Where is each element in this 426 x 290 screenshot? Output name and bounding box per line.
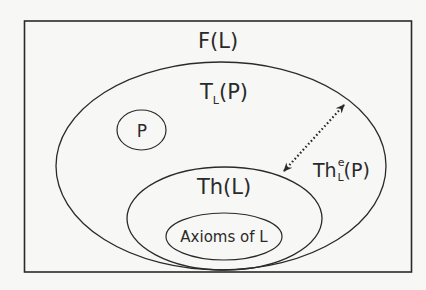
venn-diagram: F(L) TL(P) P Th(L) Axioms of L TheL(P) xyxy=(0,0,426,290)
label-axioms: Axioms of L xyxy=(180,228,268,246)
label-th-e-l-p: TheL(P) xyxy=(312,156,370,184)
label-fl: F(L) xyxy=(198,29,238,53)
label-p: P xyxy=(137,121,147,141)
label-thl: Th(L) xyxy=(196,175,251,199)
label-tlp: TL(P) xyxy=(199,80,248,107)
